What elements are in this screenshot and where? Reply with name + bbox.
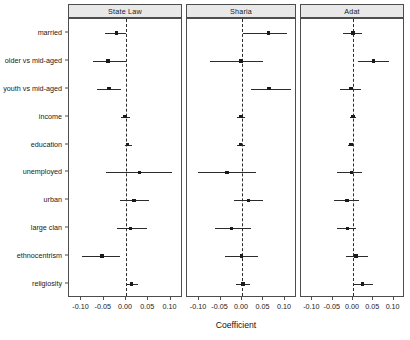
x-axis-tick <box>80 297 81 300</box>
y-axis-label: youth vs mid-aged <box>3 83 62 92</box>
panel-title: State Law <box>108 7 142 16</box>
point-estimate <box>130 282 133 285</box>
point-estimate <box>349 87 352 90</box>
point-estimate <box>267 87 270 90</box>
x-axis-tick <box>372 297 373 300</box>
x-axis-tick-label: -0.05 <box>95 302 111 311</box>
point-estimate <box>361 282 364 285</box>
coefficient-plot-figure: marriedolder vs mid-agedyouth vs mid-age… <box>0 0 410 340</box>
x-axis-tick <box>284 297 285 300</box>
point-estimate <box>100 254 103 257</box>
x-axis-tick-label: 0.00 <box>345 302 359 311</box>
x-axis-tick-label: 0.05 <box>140 302 154 311</box>
x-axis-tick <box>198 297 199 300</box>
x-axis-tick-label: 0.10 <box>386 302 400 311</box>
point-estimate <box>239 59 242 62</box>
point-estimate <box>349 143 352 146</box>
panel-title: Adat <box>344 7 360 16</box>
x-axis-tick <box>170 297 171 300</box>
point-estimate <box>241 282 244 285</box>
confidence-interval <box>210 61 264 62</box>
x-axis-tick <box>311 297 312 300</box>
point-estimate <box>132 199 135 202</box>
y-axis-label: urban <box>44 195 62 204</box>
y-axis-label: income <box>39 111 62 120</box>
x-axis-tick <box>262 297 263 300</box>
x-axis-tick-label: 0.00 <box>118 302 132 311</box>
point-estimate <box>351 31 354 34</box>
x-axis-tick-label: 0.10 <box>277 302 291 311</box>
x-axis-tick-label: -0.10 <box>190 302 206 311</box>
y-axis-label: married <box>38 27 62 36</box>
x-axis-title: Coefficient <box>216 320 256 330</box>
point-estimate <box>346 227 349 230</box>
point-estimate <box>107 87 110 90</box>
y-axis-label: education <box>31 139 62 148</box>
point-estimate <box>230 227 233 230</box>
x-axis-tick-label: 0.05 <box>365 302 379 311</box>
point-estimate <box>345 199 348 202</box>
point-estimate <box>225 171 228 174</box>
y-axis-label: large clan <box>31 223 62 232</box>
point-estimate <box>115 31 118 34</box>
x-axis-tick-label: -0.05 <box>211 302 227 311</box>
point-estimate <box>351 115 354 118</box>
point-estimate <box>126 143 129 146</box>
confidence-interval <box>243 33 286 34</box>
x-axis-tick <box>241 297 242 300</box>
point-estimate <box>239 115 242 118</box>
y-axis-label: unemployed <box>23 167 62 176</box>
point-estimate <box>372 59 375 62</box>
x-axis-tick <box>125 297 126 300</box>
x-axis-tick <box>352 297 353 300</box>
x-axis-tick-label: -0.05 <box>323 302 339 311</box>
y-axis-label: ethnocentrism <box>17 251 62 260</box>
point-estimate <box>240 254 243 257</box>
x-axis-tick <box>147 297 148 300</box>
x-axis-tick <box>220 297 221 300</box>
panel-strip-adat: Adat <box>300 4 404 18</box>
x-axis-tick-label: 0.10 <box>163 302 177 311</box>
panel-strip-state-law: State Law <box>68 4 182 18</box>
point-estimate <box>350 171 353 174</box>
zero-reference-line <box>126 19 127 296</box>
y-axis-label: older vs mid-aged <box>5 55 62 64</box>
y-axis-label: religiosity <box>32 279 62 288</box>
point-estimate <box>247 199 250 202</box>
panel-title: Sharia <box>230 7 252 16</box>
x-axis-tick-label: -0.10 <box>303 302 319 311</box>
point-estimate <box>239 143 242 146</box>
point-estimate <box>138 171 141 174</box>
x-axis-tick <box>332 297 333 300</box>
x-axis-tick <box>103 297 104 300</box>
point-estimate <box>354 254 357 257</box>
x-axis-tick-label: -0.10 <box>72 302 88 311</box>
x-axis-tick-label: 0.05 <box>255 302 269 311</box>
panel-strip-sharia: Sharia <box>186 4 296 18</box>
x-axis-tick <box>393 297 394 300</box>
point-estimate <box>123 115 126 118</box>
panel-plot-adat <box>300 18 404 297</box>
panel-plot-state-law <box>68 18 182 297</box>
point-estimate <box>267 31 270 34</box>
x-axis-tick-label: 0.00 <box>234 302 248 311</box>
point-estimate <box>106 59 109 62</box>
point-estimate <box>129 227 132 230</box>
panel-plot-sharia <box>186 18 296 297</box>
